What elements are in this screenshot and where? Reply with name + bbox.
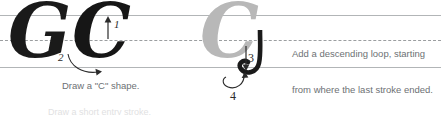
caption-descending-loop-line-2: from where the last stroke ended. [292,84,433,96]
handwriting-practice-worksheet: G C 1 2 Draw a "C" shape. C 3 4 Add a de… [0,0,441,115]
caption-cut-off-next-row: Draw a short entry stroke. [48,106,151,115]
stroke-demo-c-glyph: C [72,0,131,68]
caption-descending-loop: Add a descending loop, starting from whe… [292,24,433,115]
caption-descending-loop-line-1: Add a descending loop, starting [292,48,433,60]
stroke-number-2: 2 [58,52,64,63]
stroke-number-3: 3 [248,52,254,64]
stroke-number-1: 1 [114,19,120,30]
caption-draw-c-shape: Draw a "C" shape. [62,80,140,92]
stroke-number-4: 4 [230,90,236,102]
